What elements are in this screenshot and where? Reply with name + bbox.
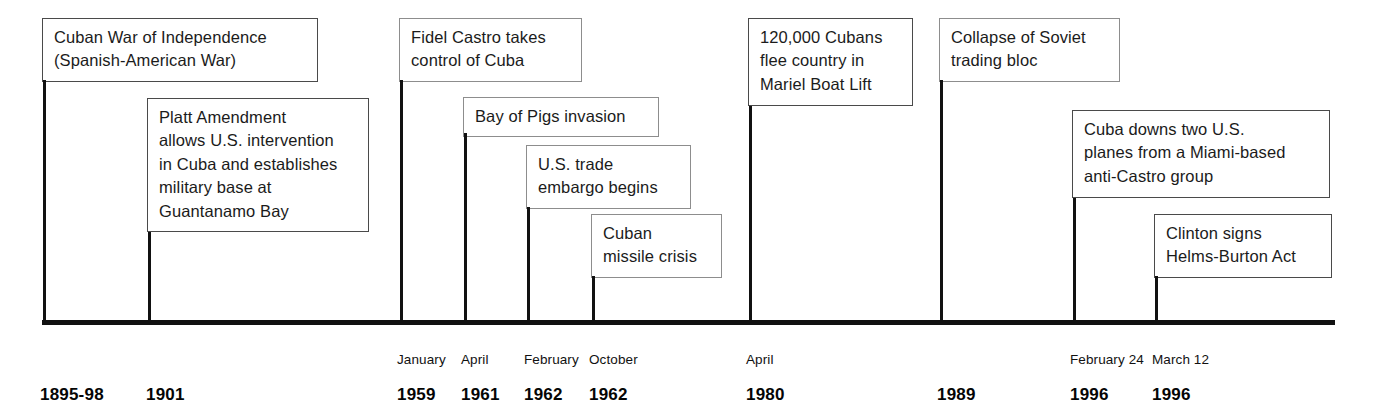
date-month: April	[746, 352, 785, 367]
event-box-clinton-signs-helms-burton-act: Clinton signs Helms-Burton Act	[1154, 214, 1332, 278]
date-label-bay-of-pigs-invasion: April 1961	[461, 334, 500, 404]
tick-line-bay-of-pigs-invasion	[464, 133, 467, 320]
tick-line-us-trade-embargo-begins	[527, 207, 530, 320]
event-box-cuban-missile-crisis: Cuban missile crisis	[591, 214, 722, 278]
event-box-bay-of-pigs-invasion: Bay of Pigs invasion	[463, 97, 659, 137]
tick-line-cuban-war-of-independence	[43, 80, 46, 320]
date-year: 1961	[461, 385, 500, 404]
date-year: 1996	[1152, 385, 1209, 404]
date-year: 1989	[937, 385, 976, 404]
date-label-mariel-boat-lift: April 1980	[746, 334, 785, 404]
event-box-platt-amendment: Platt Amendment allows U.S. intervention…	[147, 98, 369, 232]
event-box-us-trade-embargo-begins: U.S. trade embargo begins	[526, 145, 691, 209]
tick-line-platt-amendment	[148, 232, 151, 320]
date-label-cuba-downs-two-us-planes: February 24 1996	[1070, 334, 1144, 404]
date-month: October	[589, 352, 638, 367]
date-label-cuban-war-of-independence: 1895-98	[40, 334, 104, 404]
date-label-cuban-missile-crisis: October 1962	[589, 334, 638, 404]
date-label-us-trade-embargo-begins: February 1962	[524, 334, 579, 404]
event-box-fidel-castro-takes-control: Fidel Castro takes control of Cuba	[399, 18, 582, 82]
date-month: April	[461, 352, 500, 367]
date-year: 1980	[746, 385, 785, 404]
tick-line-cuba-downs-two-us-planes	[1073, 198, 1076, 320]
event-box-mariel-boat-lift: 120,000 Cubans flee country in Mariel Bo…	[748, 18, 913, 106]
date-label-fidel-castro-takes-control: January 1959	[397, 334, 446, 404]
date-year: 1962	[524, 385, 579, 404]
event-box-collapse-of-soviet-trading-bloc: Collapse of Soviet trading bloc	[939, 18, 1120, 82]
date-month: March 12	[1152, 352, 1209, 367]
date-year: 1901	[146, 385, 185, 404]
date-label-platt-amendment: 1901	[146, 334, 185, 404]
date-month: February 24	[1070, 352, 1144, 367]
date-month: January	[397, 352, 446, 367]
date-year: 1962	[589, 385, 638, 404]
tick-line-cuban-missile-crisis	[592, 276, 595, 320]
event-box-cuban-war-of-independence: Cuban War of Independence (Spanish-Ameri…	[42, 18, 318, 82]
timeline-axis	[42, 320, 1335, 325]
date-year: 1895-98	[40, 385, 104, 404]
date-label-collapse-of-soviet-trading-bloc: 1989	[937, 334, 976, 404]
date-year: 1959	[397, 385, 446, 404]
tick-line-mariel-boat-lift	[749, 106, 752, 320]
event-box-cuba-downs-two-us-planes: Cuba downs two U.S. planes from a Miami-…	[1072, 110, 1330, 198]
tick-line-collapse-of-soviet-trading-bloc	[940, 80, 943, 320]
tick-line-clinton-signs-helms-burton-act	[1155, 276, 1158, 320]
date-year: 1996	[1070, 385, 1144, 404]
date-month: February	[524, 352, 579, 367]
date-label-clinton-signs-helms-burton-act: March 12 1996	[1152, 334, 1209, 404]
tick-line-fidel-castro-takes-control	[400, 80, 403, 320]
